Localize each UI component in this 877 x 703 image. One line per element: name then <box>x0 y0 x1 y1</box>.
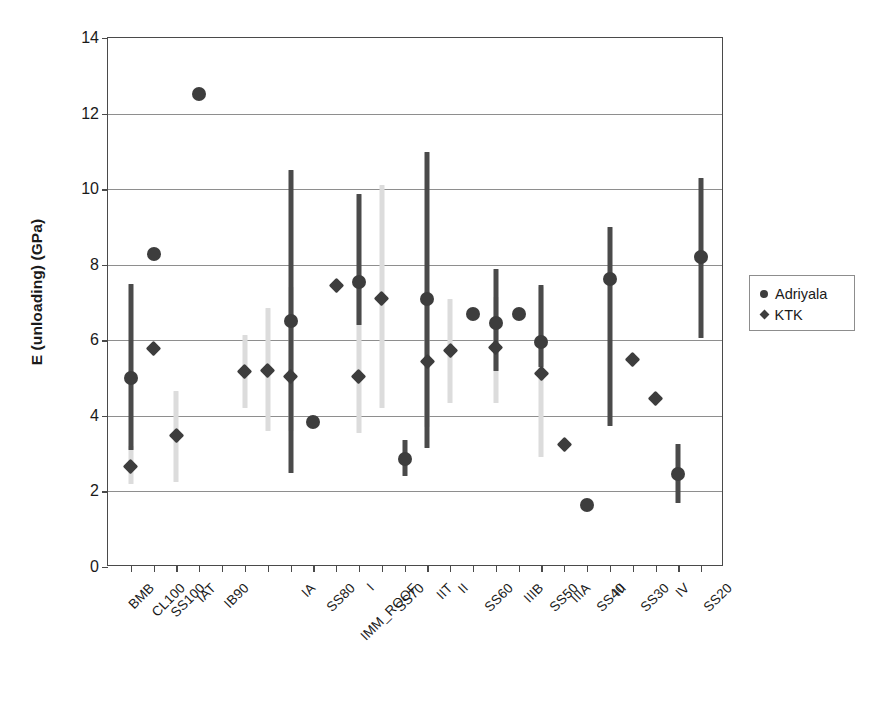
data-point-ktk <box>442 343 458 359</box>
y-axis-tick <box>102 265 108 266</box>
x-axis-tick <box>473 565 474 572</box>
data-point-adriyala <box>284 314 298 328</box>
x-axis-tick <box>701 565 702 572</box>
data-point-ktk <box>374 291 390 307</box>
data-point-ktk <box>488 340 504 356</box>
x-axis-tick <box>564 565 565 572</box>
gridline <box>108 340 722 341</box>
data-point-ktk <box>283 368 299 384</box>
x-axis-tick <box>541 565 542 572</box>
x-axis-tick <box>405 565 406 572</box>
x-axis-tick <box>245 565 246 572</box>
x-axis-tick <box>336 565 337 572</box>
x-axis-tick-label: IA <box>298 580 318 600</box>
y-axis-tick <box>102 491 108 492</box>
x-axis-tick-label: IV <box>673 580 693 600</box>
x-axis-tick <box>587 565 588 572</box>
data-point-ktk <box>146 341 162 357</box>
legend-item-ktk: KTK <box>759 304 854 325</box>
diamond-marker-icon <box>759 310 769 320</box>
error-bar <box>607 227 612 427</box>
y-axis-tick-label: 8 <box>90 256 99 274</box>
x-axis-tick <box>291 565 292 572</box>
x-axis-tick-label: I <box>364 580 377 593</box>
data-point-ktk <box>534 365 550 381</box>
chart-figure: E (unloading) (GPa) 02468101214 BMBCL100… <box>0 0 877 703</box>
x-axis-tick <box>313 565 314 572</box>
data-point-adriyala <box>398 452 412 466</box>
x-axis-tick <box>199 565 200 572</box>
data-point-ktk <box>169 428 185 444</box>
data-point-adriyala <box>124 371 138 385</box>
data-point-adriyala <box>192 87 206 101</box>
data-point-adriyala <box>147 247 161 261</box>
data-point-adriyala <box>352 275 366 289</box>
legend-label-ktk: KTK <box>775 307 803 323</box>
chart-legend: Adriyala KTK <box>749 275 855 331</box>
x-axis-tick-label: II <box>455 580 471 596</box>
data-point-ktk <box>557 436 573 452</box>
gridline <box>108 416 722 417</box>
data-point-adriyala <box>306 415 320 429</box>
data-point-ktk <box>625 352 641 368</box>
x-axis-tick <box>427 565 428 572</box>
data-point-adriyala <box>420 292 434 306</box>
data-point-adriyala <box>580 498 594 512</box>
error-bar <box>356 194 361 325</box>
x-axis-tick-label: IB90 <box>221 580 252 611</box>
y-axis-tick <box>102 114 108 115</box>
x-axis-tick <box>450 565 451 572</box>
data-point-ktk <box>648 391 664 407</box>
gridline <box>108 265 722 266</box>
x-axis-tick-label: IIIB <box>521 580 547 606</box>
data-point-adriyala <box>694 250 708 264</box>
y-axis-tick <box>102 340 108 341</box>
gridline <box>108 189 722 190</box>
y-axis-tick <box>102 189 108 190</box>
data-point-ktk <box>123 459 139 475</box>
data-point-adriyala <box>512 307 526 321</box>
data-point-ktk <box>260 363 276 379</box>
gridline <box>108 114 722 115</box>
x-axis-tick <box>382 565 383 572</box>
x-axis-tick <box>359 565 360 572</box>
y-axis-tick <box>102 38 108 39</box>
y-axis-tick-label: 0 <box>90 558 99 576</box>
data-point-ktk <box>420 353 436 369</box>
plot-area: 02468101214 <box>107 37 723 566</box>
data-point-ktk <box>237 363 253 379</box>
x-axis-tick-label: SS30 <box>638 580 673 615</box>
x-axis-tick-label: SS20 <box>700 580 735 615</box>
x-axis-tick <box>610 565 611 572</box>
x-axis-tick <box>176 565 177 572</box>
y-axis-tick-label: 14 <box>81 29 99 47</box>
x-axis-tick-label: SS60 <box>482 580 517 615</box>
x-axis-tick <box>656 565 657 572</box>
y-axis-tick <box>102 416 108 417</box>
x-axis-tick <box>678 565 679 572</box>
x-axis-tick <box>633 565 634 572</box>
gridline <box>108 491 722 492</box>
data-point-adriyala <box>603 272 617 286</box>
data-point-ktk <box>351 369 367 385</box>
error-bar <box>128 284 133 450</box>
x-axis-tick <box>222 565 223 572</box>
error-bar <box>539 285 544 366</box>
data-point-adriyala <box>489 316 503 330</box>
x-axis-tick-label: SS80 <box>324 580 359 615</box>
data-point-adriyala <box>671 467 685 481</box>
data-point-ktk <box>328 278 344 294</box>
y-axis-tick-label: 6 <box>90 331 99 349</box>
x-axis-tick <box>519 565 520 572</box>
x-axis-tick <box>154 565 155 572</box>
y-axis-tick-label: 10 <box>81 180 99 198</box>
x-axis-tick <box>131 565 132 572</box>
y-axis-tick-label: 12 <box>81 105 99 123</box>
x-axis-tick <box>268 565 269 572</box>
data-point-adriyala <box>534 335 548 349</box>
y-axis-tick <box>102 567 108 568</box>
circle-marker-icon <box>760 290 768 298</box>
legend-item-adriyala: Adriyala <box>759 283 854 304</box>
y-axis-tick-label: 2 <box>90 482 99 500</box>
x-axis-tick-label: IIT <box>434 580 456 602</box>
